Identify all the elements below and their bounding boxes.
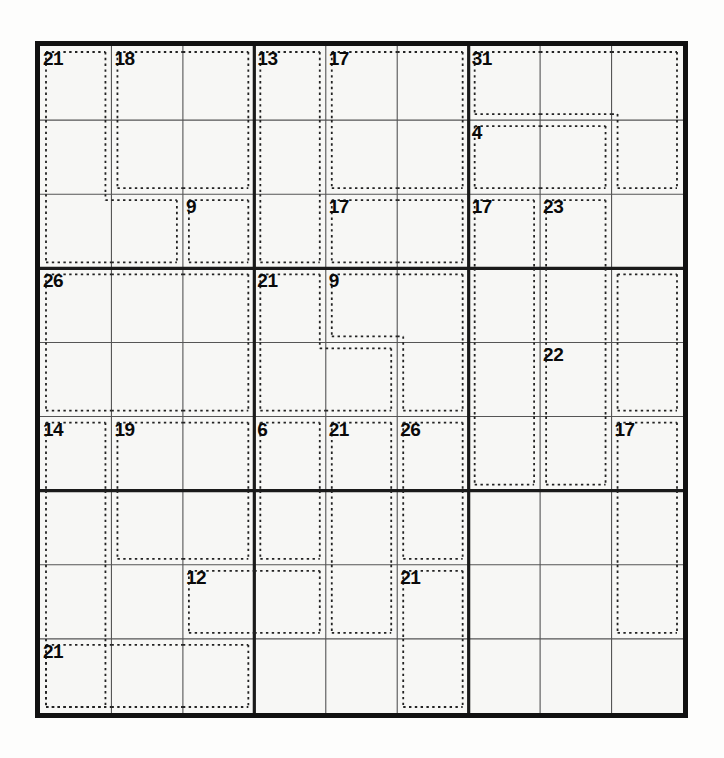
sudoku-cell-r3c8[interactable]: [540, 194, 611, 268]
sudoku-cell-r8c2[interactable]: [111, 565, 182, 639]
sudoku-cell-r5c4[interactable]: [254, 342, 325, 416]
sudoku-cell-r1c5[interactable]: [326, 46, 397, 120]
sudoku-cell-r8c6[interactable]: [397, 565, 468, 639]
sudoku-cell-r8c1[interactable]: [40, 565, 111, 639]
sudoku-cell-r9c8[interactable]: [540, 639, 611, 713]
sudoku-cell-r4c5[interactable]: [326, 268, 397, 342]
sudoku-cell-r3c7[interactable]: [469, 194, 540, 268]
sudoku-cell-r5c1[interactable]: [40, 342, 111, 416]
sudoku-cell-r9c4[interactable]: [254, 639, 325, 713]
sudoku-cell-r5c8[interactable]: [540, 342, 611, 416]
sudoku-cell-r4c1[interactable]: [40, 268, 111, 342]
sudoku-cell-r8c9[interactable]: [612, 565, 683, 639]
sudoku-cell-r5c6[interactable]: [397, 342, 468, 416]
sudoku-cell-r6c1[interactable]: [40, 417, 111, 491]
sudoku-cell-r1c8[interactable]: [540, 46, 611, 120]
sudoku-cell-r9c7[interactable]: [469, 639, 540, 713]
sudoku-cell-r9c2[interactable]: [111, 639, 182, 713]
sudoku-cell-r2c1[interactable]: [40, 120, 111, 194]
sudoku-cell-r6c4[interactable]: [254, 417, 325, 491]
sudoku-cell-r2c5[interactable]: [326, 120, 397, 194]
sudoku-cell-r9c6[interactable]: [397, 639, 468, 713]
sudoku-cell-r5c7[interactable]: [469, 342, 540, 416]
sudoku-cell-r3c6[interactable]: [397, 194, 468, 268]
sudoku-cell-r7c8[interactable]: [540, 491, 611, 565]
sudoku-cell-r2c9[interactable]: [612, 120, 683, 194]
sudoku-cell-r2c2[interactable]: [111, 120, 182, 194]
sudoku-cell-r4c3[interactable]: [183, 268, 254, 342]
sudoku-cell-r7c6[interactable]: [397, 491, 468, 565]
sudoku-cell-r1c3[interactable]: [183, 46, 254, 120]
sudoku-cell-r7c1[interactable]: [40, 491, 111, 565]
sudoku-cell-r1c1[interactable]: [40, 46, 111, 120]
sudoku-cell-r3c3[interactable]: [183, 194, 254, 268]
sudoku-cell-r6c2[interactable]: [111, 417, 182, 491]
sudoku-cell-r4c9[interactable]: [612, 268, 683, 342]
sudoku-cell-r3c5[interactable]: [326, 194, 397, 268]
sudoku-cell-r8c8[interactable]: [540, 565, 611, 639]
sudoku-cell-r1c6[interactable]: [397, 46, 468, 120]
page-root: 2118131731491717232621922141962126171221…: [0, 0, 724, 758]
sudoku-cell-r4c2[interactable]: [111, 268, 182, 342]
sudoku-cell-r2c3[interactable]: [183, 120, 254, 194]
sudoku-cell-r7c3[interactable]: [183, 491, 254, 565]
sudoku-cell-r2c4[interactable]: [254, 120, 325, 194]
sudoku-cell-r8c3[interactable]: [183, 565, 254, 639]
sudoku-cell-r8c4[interactable]: [254, 565, 325, 639]
sudoku-cell-r1c9[interactable]: [612, 46, 683, 120]
sudoku-cell-r7c9[interactable]: [612, 491, 683, 565]
killer-sudoku-grid[interactable]: 2118131731491717232621922141962126171221…: [35, 41, 688, 718]
sudoku-cell-r4c7[interactable]: [469, 268, 540, 342]
sudoku-cell-r4c8[interactable]: [540, 268, 611, 342]
sudoku-cell-r6c3[interactable]: [183, 417, 254, 491]
sudoku-cell-r3c4[interactable]: [254, 194, 325, 268]
sudoku-cell-r9c1[interactable]: [40, 639, 111, 713]
sudoku-cell-r2c7[interactable]: [469, 120, 540, 194]
sudoku-cell-r7c2[interactable]: [111, 491, 182, 565]
sudoku-cell-r7c4[interactable]: [254, 491, 325, 565]
sudoku-cell-r1c7[interactable]: [469, 46, 540, 120]
sudoku-cell-r2c6[interactable]: [397, 120, 468, 194]
sudoku-cell-r6c5[interactable]: [326, 417, 397, 491]
sudoku-cell-r2c8[interactable]: [540, 120, 611, 194]
sudoku-cell-r4c6[interactable]: [397, 268, 468, 342]
sudoku-cell-r9c3[interactable]: [183, 639, 254, 713]
sudoku-cell-r6c7[interactable]: [469, 417, 540, 491]
sudoku-cell-r9c9[interactable]: [612, 639, 683, 713]
sudoku-cell-r6c6[interactable]: [397, 417, 468, 491]
sudoku-cell-r3c2[interactable]: [111, 194, 182, 268]
sudoku-cell-r5c2[interactable]: [111, 342, 182, 416]
sudoku-cell-r7c7[interactable]: [469, 491, 540, 565]
sudoku-cell-r8c5[interactable]: [326, 565, 397, 639]
sudoku-cell-r4c4[interactable]: [254, 268, 325, 342]
sudoku-cell-r5c5[interactable]: [326, 342, 397, 416]
sudoku-cell-r7c5[interactable]: [326, 491, 397, 565]
sudoku-cell-r1c2[interactable]: [111, 46, 182, 120]
sudoku-cell-r9c5[interactable]: [326, 639, 397, 713]
sudoku-cell-r3c9[interactable]: [612, 194, 683, 268]
sudoku-cell-r5c3[interactable]: [183, 342, 254, 416]
sudoku-cell-r3c1[interactable]: [40, 194, 111, 268]
sudoku-cell-r8c7[interactable]: [469, 565, 540, 639]
sudoku-cell-r6c9[interactable]: [612, 417, 683, 491]
sudoku-cell-r5c9[interactable]: [612, 342, 683, 416]
sudoku-cell-r1c4[interactable]: [254, 46, 325, 120]
sudoku-cell-r6c8[interactable]: [540, 417, 611, 491]
